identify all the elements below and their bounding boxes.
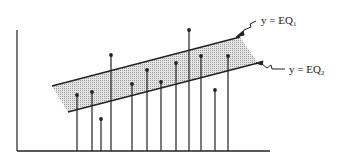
eq1-callout-arrow-icon — [236, 21, 256, 37]
eq2-label-text: y = EQ — [289, 63, 321, 75]
data-point — [99, 117, 103, 121]
data-point — [90, 90, 94, 94]
eq2-callout-arrow-icon — [256, 61, 285, 69]
eq1-label-subscript: 1 — [293, 20, 297, 28]
data-point — [174, 61, 178, 65]
data-point — [226, 54, 230, 58]
data-point — [199, 54, 203, 58]
data-point — [159, 80, 163, 84]
data-point — [187, 28, 191, 32]
equilibrium-band — [52, 37, 258, 112]
data-point — [130, 82, 134, 86]
eq2-label-subscript: 2 — [321, 69, 325, 77]
data-point — [145, 68, 149, 72]
eq2-label: y = EQ2 — [289, 64, 324, 77]
data-point — [75, 93, 79, 97]
eq1-label-text: y = EQ — [261, 14, 293, 26]
data-point — [213, 88, 217, 92]
data-point — [109, 53, 113, 57]
eq1-label: y = EQ1 — [261, 15, 296, 28]
